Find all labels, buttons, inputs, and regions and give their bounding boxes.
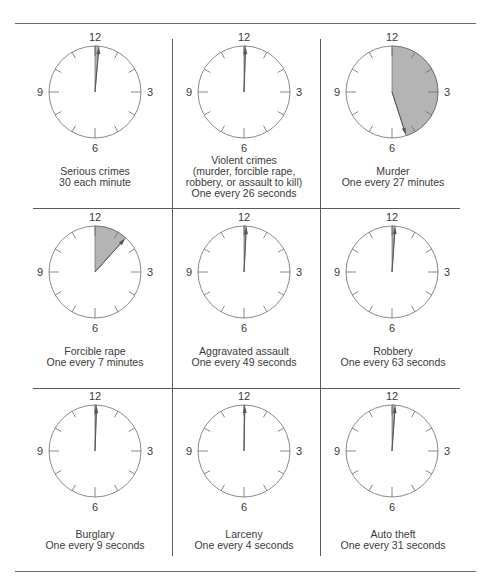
caption-line: One every 31 seconds xyxy=(319,540,467,551)
caption-aggravated-assault: Aggravated assault One every 49 seconds xyxy=(170,346,318,368)
clock-number: 9 xyxy=(334,266,340,278)
caption-auto-theft: Auto theft One every 31 seconds xyxy=(319,529,467,551)
clock-number: 3 xyxy=(444,266,450,278)
caption-line: One every 63 seconds xyxy=(319,357,467,368)
clock-number: 12 xyxy=(89,390,101,402)
clock-number: 3 xyxy=(147,86,153,98)
clock-number: 12 xyxy=(89,211,101,223)
clock-number: 6 xyxy=(92,322,98,334)
caption-serious-crimes: Serious crimes 30 each minute xyxy=(21,166,169,188)
clock-number: 3 xyxy=(296,445,302,457)
clock-number: 9 xyxy=(37,86,43,98)
clock-number: 12 xyxy=(238,31,250,43)
clock-number: 9 xyxy=(334,86,340,98)
clock-number: 6 xyxy=(92,501,98,513)
caption-line: One every 7 minutes xyxy=(21,357,169,368)
clock-number: 3 xyxy=(147,445,153,457)
clock-number: 12 xyxy=(386,31,398,43)
clock-number: 9 xyxy=(186,266,192,278)
caption-robbery: Robbery One every 63 seconds xyxy=(319,346,467,368)
caption-line: One every 49 seconds xyxy=(170,357,318,368)
clock-violent-crimes: 12369 xyxy=(186,31,302,154)
caption-murder: Murder One every 27 minutes xyxy=(319,166,467,188)
clock-robbery: 12369 xyxy=(334,211,450,334)
caption-line: One every 9 seconds xyxy=(21,540,169,551)
caption-line: One every 27 minutes xyxy=(319,177,467,188)
clock-number: 12 xyxy=(238,211,250,223)
clock-larceny: 12369 xyxy=(186,390,302,513)
clock-number: 9 xyxy=(186,445,192,457)
clock-number: 6 xyxy=(241,322,247,334)
clock-number: 3 xyxy=(296,86,302,98)
clock-number: 12 xyxy=(386,211,398,223)
caption-larceny: Larceny One every 4 seconds xyxy=(170,529,318,551)
clock-auto-theft: 12369 xyxy=(334,390,450,513)
clock-number: 6 xyxy=(389,142,395,154)
clock-murder: 12369 xyxy=(334,31,450,154)
clock-number: 9 xyxy=(334,445,340,457)
clock-number: 12 xyxy=(89,31,101,43)
caption-line: One every 26 seconds xyxy=(170,188,318,199)
clock-burglary: 12369 xyxy=(37,390,153,513)
clock-number: 3 xyxy=(444,86,450,98)
clock-number: 12 xyxy=(238,390,250,402)
clock-number: 9 xyxy=(37,266,43,278)
clock-number: 6 xyxy=(92,142,98,154)
clock-number: 3 xyxy=(296,266,302,278)
caption-line: One every 4 seconds xyxy=(170,540,318,551)
clock-number: 6 xyxy=(241,501,247,513)
clock-number: 6 xyxy=(241,142,247,154)
caption-forcible-rape: Forcible rape One every 7 minutes xyxy=(21,346,169,368)
clock-grid: 1236912369123691236912369123691236912369… xyxy=(0,0,483,581)
clock-forcible-rape: 12369 xyxy=(37,211,153,334)
clock-number: 6 xyxy=(389,322,395,334)
clock-number: 3 xyxy=(444,445,450,457)
clock-number: 12 xyxy=(386,390,398,402)
clock-serious-crimes: 12369 xyxy=(37,31,153,154)
caption-line: 30 each minute xyxy=(21,177,169,188)
clock-number: 9 xyxy=(37,445,43,457)
clock-number: 9 xyxy=(186,86,192,98)
caption-burglary: Burglary One every 9 seconds xyxy=(21,529,169,551)
caption-violent-crimes: Violent crimes (murder, forcible rape, r… xyxy=(170,155,318,199)
clock-number: 6 xyxy=(389,501,395,513)
clock-aggravated-assault: 12369 xyxy=(186,211,302,334)
clock-number: 3 xyxy=(147,266,153,278)
